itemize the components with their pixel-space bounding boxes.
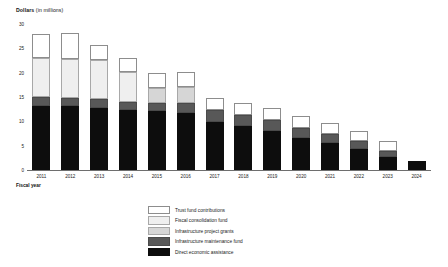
bar-segment (350, 149, 368, 170)
bar-segment (90, 108, 108, 170)
bar-2014 (119, 58, 137, 170)
bar-segment (292, 138, 310, 170)
bar-2013 (90, 45, 108, 170)
legend-swatch-icon (148, 237, 170, 245)
bar-segment (321, 134, 339, 143)
bar-segment (263, 108, 281, 120)
y-axis-tick-label: 20 (19, 70, 24, 75)
bar-segment (32, 106, 50, 170)
x-axis-tick-label: 2021 (315, 174, 345, 179)
legend-label: Fiscal consolidation fund (175, 218, 228, 223)
bar-segment (148, 111, 166, 170)
plot-area: 051015202530 (27, 24, 431, 170)
bar-2012 (61, 33, 79, 170)
legend-label: Infrastructure maintenance fund (175, 239, 243, 244)
x-axis-tick-label: 2013 (84, 174, 114, 179)
bar-segment (61, 106, 79, 170)
bar-segment (61, 98, 79, 107)
bar-2020 (292, 116, 310, 170)
x-axis-tick-label: 2024 (402, 174, 432, 179)
legend-item: Direct economic assistance (148, 248, 243, 256)
bar-segment (148, 103, 166, 111)
legend-swatch-icon (148, 248, 170, 256)
bar-2024 (408, 161, 426, 170)
x-axis-line (27, 170, 431, 171)
legend-item: Infrastructure maintenance fund (148, 237, 243, 245)
bar-segment (177, 87, 195, 103)
y-axis-title: Dollars (in millions) (16, 7, 63, 13)
y-axis-tick-label: 5 (21, 143, 24, 148)
bar-segment (379, 157, 397, 170)
x-axis-tick-label: 2017 (200, 174, 230, 179)
legend-label: Direct economic assistance (175, 250, 233, 255)
bar-segment (90, 60, 108, 99)
chart-figure: Dollars (in millions) 051015202530 Fisca… (0, 0, 448, 267)
bar-segment (32, 58, 50, 97)
bar-segment (90, 45, 108, 60)
bar-2019 (263, 108, 281, 170)
bar-segment (177, 103, 195, 113)
bar-2011 (32, 34, 50, 170)
legend-item: Fiscal consolidation fund (148, 216, 243, 224)
bar-segment (321, 123, 339, 134)
bar-segment (90, 99, 108, 108)
x-axis-tick-label: 2020 (286, 174, 316, 179)
x-axis-tick-label: 2011 (26, 174, 56, 179)
bar-2015 (148, 73, 166, 170)
bar-segment (350, 131, 368, 141)
bar-segment (292, 128, 310, 138)
y-axis-tick-label: 15 (19, 95, 24, 100)
bar-segment (206, 110, 224, 122)
bar-segment (119, 102, 137, 109)
bar-segment (32, 97, 50, 106)
bar-segment (263, 120, 281, 131)
bar-segment (263, 131, 281, 170)
bar-segment (32, 34, 50, 58)
bar-segment (148, 88, 166, 103)
bar-segment (119, 58, 137, 72)
bar-segment (321, 143, 339, 170)
bar-segment (177, 113, 195, 170)
bar-segment (119, 110, 137, 170)
x-axis-tick-label: 2022 (344, 174, 374, 179)
legend-swatch-icon (148, 216, 170, 224)
chart-legend: Trust fund contributionsFiscal consolida… (148, 206, 243, 256)
x-axis-tick-label: 2018 (228, 174, 258, 179)
y-axis-tick-label: 30 (19, 22, 24, 27)
x-axis-tick-label: 2023 (373, 174, 403, 179)
bar-segment (408, 161, 426, 170)
bar-segment (119, 72, 137, 103)
bar-segment (350, 141, 368, 148)
bar-segment (379, 141, 397, 151)
x-axis-tick-label: 2016 (171, 174, 201, 179)
legend-swatch-icon (148, 227, 170, 235)
y-axis-title-bold: Dollars (16, 7, 34, 13)
y-axis-tick-label: 10 (19, 119, 24, 124)
x-axis-tick-label: 2014 (113, 174, 143, 179)
legend-item: Infrastructure project grants (148, 227, 243, 235)
bar-2021 (321, 123, 339, 170)
bar-segment (234, 103, 252, 114)
y-axis-tick-label: 0 (21, 168, 24, 173)
x-axis-tick-label: 2019 (257, 174, 287, 179)
bar-2023 (379, 141, 397, 170)
bar-segment (206, 122, 224, 170)
bar-2018 (234, 103, 252, 170)
y-axis-title-unit: (in millions) (36, 7, 64, 13)
bar-2017 (206, 98, 224, 170)
legend-label: Trust fund contributions (175, 208, 225, 213)
x-axis-tick-label: 2015 (142, 174, 172, 179)
bar-segment (61, 59, 79, 98)
bar-segment (234, 126, 252, 170)
bar-2016 (177, 72, 195, 170)
x-axis-title: Fiscal year (16, 183, 41, 188)
bar-segment (148, 73, 166, 89)
bar-segment (177, 72, 195, 87)
bar-2022 (350, 131, 368, 170)
legend-label: Infrastructure project grants (175, 229, 234, 234)
legend-item: Trust fund contributions (148, 206, 243, 214)
legend-swatch-icon (148, 206, 170, 214)
bar-segment (206, 98, 224, 110)
bar-segment (292, 116, 310, 128)
x-axis-tick-label: 2012 (55, 174, 85, 179)
